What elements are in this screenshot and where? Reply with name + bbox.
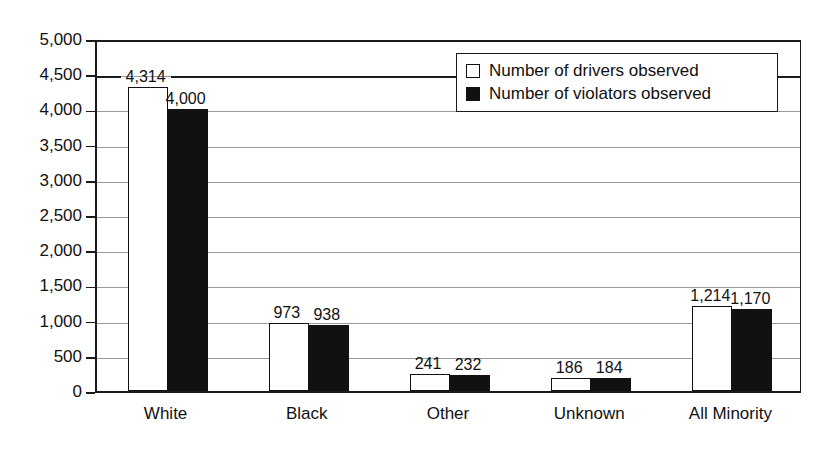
y-axis-tick-label: 2,000	[0, 241, 82, 261]
bar-value-label: 938	[296, 306, 358, 324]
y-axis-tick-mark	[86, 111, 95, 113]
y-axis-tick-mark	[86, 216, 95, 218]
y-axis-tick-label: 5,000	[0, 30, 82, 50]
bar-white-drivers	[128, 87, 168, 391]
y-axis-tick-mark	[86, 287, 95, 289]
y-axis-tick-label: 3,500	[0, 136, 82, 156]
bar-other-violators	[450, 375, 490, 391]
bar-all-minority-drivers	[692, 306, 732, 391]
legend-item-violators: Number of violators observed	[466, 82, 768, 105]
y-axis-tick-mark	[86, 75, 95, 77]
legend-item-drivers: Number of drivers observed	[466, 59, 768, 82]
y-axis-tick-label: 3,000	[0, 171, 82, 191]
x-axis-label-other: Other	[377, 404, 518, 424]
bar-value-label: 4,314	[115, 68, 177, 86]
leader-line-left	[95, 76, 121, 77]
bar-chart: 05001,0001,5002,0002,5003,0003,5004,0004…	[0, 0, 824, 453]
y-axis-tick-label: 1,500	[0, 276, 82, 296]
y-axis-tick-mark	[86, 181, 95, 183]
bar-black-drivers	[269, 323, 309, 391]
chart-legend: Number of drivers observed Number of vio…	[456, 53, 778, 112]
y-axis-tick-label: 4,000	[0, 100, 82, 120]
bar-unknown-violators	[591, 378, 631, 391]
bar-value-label: 1,170	[719, 290, 781, 308]
y-axis-tick-label: 4,500	[0, 65, 82, 85]
bar-value-label: 184	[578, 359, 640, 377]
y-axis-tick-label: 1,000	[0, 312, 82, 332]
legend-swatch-violators-icon	[466, 87, 480, 101]
legend-label-drivers: Number of drivers observed	[489, 62, 699, 79]
bar-value-label: 232	[437, 356, 499, 374]
bar-all-minority-violators	[732, 309, 772, 391]
y-axis-tick-mark	[86, 40, 95, 42]
y-axis-tick-mark	[86, 392, 95, 394]
bar-other-drivers	[410, 374, 450, 391]
x-axis-label-white: White	[95, 404, 236, 424]
x-axis-label-black: Black	[236, 404, 377, 424]
x-axis-label-unknown: Unknown	[519, 404, 660, 424]
legend-label-violators: Number of violators observed	[489, 85, 711, 102]
y-axis-tick-label: 0	[0, 382, 82, 402]
y-axis-tick-mark	[86, 357, 95, 359]
x-axis-label-all-minority: All Minority	[660, 404, 801, 424]
y-axis-tick-label: 500	[0, 347, 82, 367]
bar-white-violators	[168, 109, 208, 391]
bar-unknown-drivers	[551, 378, 591, 391]
legend-swatch-drivers-icon	[466, 64, 480, 78]
bar-value-label: 4,000	[155, 90, 217, 108]
y-axis-tick-label: 2,500	[0, 206, 82, 226]
y-axis-tick-mark	[86, 146, 95, 148]
y-axis-tick-mark	[86, 251, 95, 253]
y-axis-tick-mark	[86, 322, 95, 324]
bar-black-violators	[309, 325, 349, 391]
